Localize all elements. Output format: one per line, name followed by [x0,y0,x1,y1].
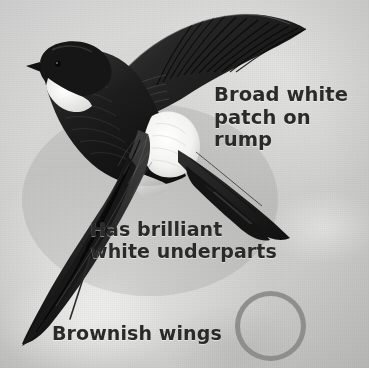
eye [55,61,61,67]
annotated-bird-illustration: Broad white patch on rump Has brilliant … [0,0,369,368]
annotation-broad-white-patch-on-rump: Broad white patch on rump [214,84,369,152]
beak-icon [26,62,41,72]
annotation-brownish-wings: Brownish wings [52,322,222,344]
annotation-has-brilliant-white-underparts: Has brilliant white underparts [90,218,277,262]
bird-illustration [0,0,369,368]
circle-annotation-marker [235,291,306,361]
bird-head [26,41,112,96]
